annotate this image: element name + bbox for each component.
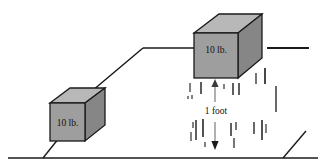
upper-cube-front-face [194, 33, 238, 78]
physics-diagram: 10 lb. 10 lb. 1 foot [0, 0, 327, 167]
upper-cube: 10 lb. [194, 14, 262, 78]
tick-marks [188, 68, 276, 148]
arrowhead-down [211, 141, 218, 150]
lower-cube-label: 10 lb. [57, 118, 79, 128]
lower-cube: 10 lb. [50, 88, 105, 141]
height-label: 1 foot [205, 106, 228, 116]
upper-cube-label: 10 lb. [205, 45, 227, 55]
height-measurement-arrow: 1 foot [205, 79, 228, 150]
arrowhead-up [211, 79, 218, 87]
